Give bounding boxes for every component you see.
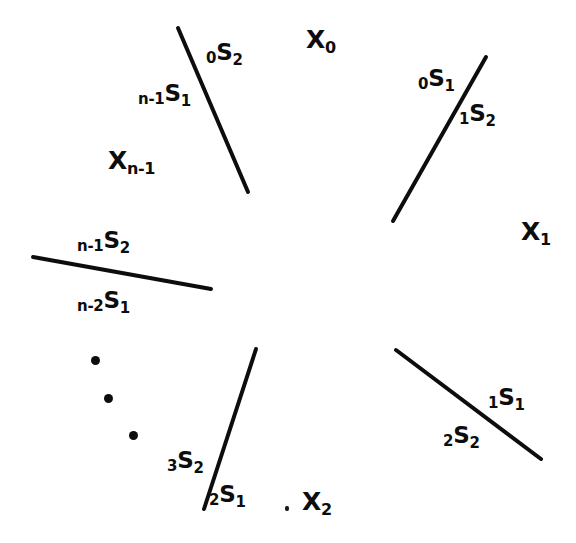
region-x0: X0 <box>306 27 336 56</box>
boundary-strokes-layer <box>0 0 576 543</box>
label-2s2: 2S2 <box>443 424 480 451</box>
label-0s1-presubscript: 0 <box>418 75 428 93</box>
ellipsis-dot-3 <box>129 431 138 440</box>
label-0s1: 0S1 <box>418 67 455 94</box>
region-x2-subscript: 2 <box>321 500 332 519</box>
label-3s2-subscript: 2 <box>194 459 204 477</box>
label-2s1-presubscript: 2 <box>209 491 219 509</box>
figure-canvas: X0X1X2Xn-1 0S2n-1S10S11S2n-1S2n-2S13S22S… <box>0 0 576 543</box>
label-0s1-base: S <box>428 65 444 91</box>
label-n-1s2: n-1S2 <box>77 229 130 256</box>
region-x1: X1 <box>521 219 551 248</box>
ellipsis-dot-2 <box>104 394 113 403</box>
label-0s2-presubscript: 0 <box>206 49 216 67</box>
label-n-2s1: n-2S1 <box>77 289 130 316</box>
label-1s2: 1S2 <box>459 102 496 129</box>
region-x0-subscript: 0 <box>325 38 336 57</box>
region-x1-base: X <box>521 217 540 246</box>
stray-comma-mark <box>285 506 289 511</box>
label-2s1-subscript: 1 <box>236 493 246 511</box>
label-1s1-presubscript: 1 <box>488 394 498 412</box>
label-n-2s1-subscript: 1 <box>120 299 130 317</box>
label-2s1: 2S1 <box>209 483 246 510</box>
label-3s2: 3S2 <box>167 449 204 476</box>
region-xn-1: Xn-1 <box>108 148 155 177</box>
label-1s1: 1S1 <box>488 386 525 413</box>
label-n-1s1: n-1S1 <box>138 82 191 109</box>
label-n-2s1-presubscript: n-2 <box>77 297 103 315</box>
label-0s1-subscript: 1 <box>445 77 455 95</box>
boundary-stroke-left <box>33 257 211 289</box>
label-n-1s2-presubscript: n-1 <box>77 237 103 255</box>
label-1s1-base: S <box>498 384 514 410</box>
region-xn-1-subscript: n-1 <box>127 159 155 178</box>
label-n-1s2-base: S <box>103 227 119 253</box>
label-n-1s1-base: S <box>164 80 180 106</box>
region-x2: X2 <box>302 489 332 518</box>
label-2s2-subscript: 2 <box>470 434 480 452</box>
label-n-1s1-subscript: 1 <box>181 92 191 110</box>
label-1s1-subscript: 1 <box>515 396 525 414</box>
label-1s2-subscript: 2 <box>486 112 496 130</box>
label-n-2s1-base: S <box>103 287 119 313</box>
label-3s2-presubscript: 3 <box>167 457 177 475</box>
region-x2-base: X <box>302 487 321 516</box>
label-0s2-subscript: 2 <box>233 51 243 69</box>
label-n-1s1-presubscript: n-1 <box>138 90 164 108</box>
label-2s1-base: S <box>219 481 235 507</box>
region-xn-1-base: X <box>108 146 127 175</box>
label-1s2-presubscript: 1 <box>459 110 469 128</box>
label-2s2-base: S <box>453 422 469 448</box>
region-x1-subscript: 1 <box>540 230 551 249</box>
label-2s2-presubscript: 2 <box>443 432 453 450</box>
label-0s2-base: S <box>216 39 232 65</box>
label-0s2: 0S2 <box>206 41 243 68</box>
label-1s2-base: S <box>469 100 485 126</box>
label-n-1s2-subscript: 2 <box>120 239 130 257</box>
label-3s2-base: S <box>177 447 193 473</box>
region-x0-base: X <box>306 25 325 54</box>
ellipsis-dot-1 <box>91 356 100 365</box>
